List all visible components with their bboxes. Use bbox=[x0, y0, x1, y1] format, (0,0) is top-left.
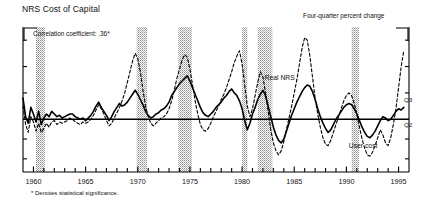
q3-endpoint-label: Q3 bbox=[404, 96, 412, 103]
x-tick-label: 1985 bbox=[286, 177, 302, 186]
recession-band bbox=[36, 27, 45, 172]
recession-band bbox=[258, 27, 273, 172]
x-axis-tick-labels: 19601965197019751980198519901995 bbox=[25, 177, 406, 186]
x-tick-label: 1960 bbox=[25, 177, 41, 186]
series-label-user-cost: User cost bbox=[349, 142, 378, 149]
axis-note-leader-bracket bbox=[396, 28, 408, 41]
x-tick-label: 1965 bbox=[78, 177, 94, 186]
series-label-real-nrs: Real NRS bbox=[265, 74, 296, 81]
x-tick-label: 1990 bbox=[338, 177, 354, 186]
recession-band bbox=[352, 27, 359, 172]
data-series-group bbox=[23, 38, 404, 157]
recession-band bbox=[242, 27, 247, 172]
series-line-real-nrs bbox=[23, 76, 404, 143]
x-axis-ticks bbox=[33, 167, 398, 173]
series-inline-labels: Real NRSUser cost bbox=[265, 74, 378, 150]
x-tick-label: 1975 bbox=[182, 177, 198, 186]
x-tick-label: 1970 bbox=[130, 177, 146, 186]
footnote: * Denotes statistical significance. bbox=[31, 190, 118, 196]
series-line-user-cost bbox=[23, 38, 404, 157]
axes-frame bbox=[23, 27, 409, 172]
recession-band bbox=[137, 27, 147, 172]
axis-unit-annotation: Four-quarter percent change bbox=[303, 12, 384, 19]
chart-figure: NRS Cost of Capital Correlation coeffici… bbox=[0, 0, 425, 210]
q2-endpoint-label: Q2 bbox=[404, 121, 412, 128]
correlation-annotation: Correlation coefficient: .36* bbox=[33, 30, 110, 37]
x-tick-label: 1980 bbox=[234, 177, 250, 186]
page-title: NRS Cost of Capital bbox=[22, 4, 100, 14]
x-tick-label: 1995 bbox=[391, 177, 407, 186]
recession-band bbox=[178, 27, 192, 172]
